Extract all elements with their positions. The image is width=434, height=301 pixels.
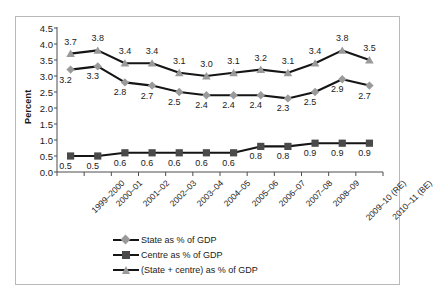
legend-item[interactable]: State as % of GDP [113, 232, 258, 247]
data-point-label: 3.8 [91, 33, 104, 43]
data-point-label: 0.6 [222, 158, 235, 168]
data-point-label: 2.8 [114, 87, 127, 97]
legend-item[interactable]: Centre as % of GDP [113, 247, 258, 262]
data-point-label: 3.1 [282, 56, 295, 66]
data-point-label: 0.6 [168, 158, 181, 168]
data-point-label: 3.4 [146, 46, 159, 56]
data-point-label: 3.5 [363, 43, 376, 53]
data-point-label: 3.2 [254, 53, 267, 63]
data-point-label: 0.8 [277, 151, 290, 161]
data-point-label: 0.9 [331, 148, 344, 158]
data-point-label: 3.0 [200, 59, 213, 69]
data-point-label: 0.9 [304, 148, 317, 158]
chart-legend: State as % of GDPCentre as % of GDP(Stat… [113, 232, 258, 277]
data-point-label: 2.9 [331, 84, 344, 94]
data-point-label: 3.2 [59, 75, 72, 85]
data-point-label: 2.5 [168, 97, 181, 107]
x-tick-label: 2006–07 [276, 178, 306, 208]
data-point-label: 2.4 [195, 100, 208, 110]
data-point-label: 2.7 [141, 91, 154, 101]
data-point-label: 3.8 [336, 33, 349, 43]
data-point-label: 2.5 [304, 97, 317, 107]
data-point-label: 3.4 [309, 46, 322, 56]
data-point-label: 0.8 [249, 151, 262, 161]
legend-item[interactable]: (State + centre) as % of GDP [113, 262, 258, 277]
data-point-label: 0.5 [59, 161, 72, 171]
legend-label: (State + centre) as % of GDP [141, 265, 258, 275]
x-tick-label: 2002–03 [168, 178, 198, 208]
x-tick-label: 2008–09 [331, 178, 361, 208]
diamond-icon [113, 235, 139, 244]
data-point-label: 3.4 [119, 46, 132, 56]
square-icon [113, 250, 139, 259]
data-point-label: 2.7 [358, 91, 371, 101]
data-point-label: 0.9 [358, 148, 371, 158]
x-tick-label: 2003–04 [195, 178, 225, 208]
x-tick-label: 2007–08 [304, 178, 334, 208]
data-point-label: 3.7 [64, 37, 77, 47]
x-tick-label: 2001–02 [141, 178, 171, 208]
x-tick-label: 2005–06 [249, 178, 279, 208]
data-point-label: 0.6 [195, 158, 208, 168]
data-point-label: 2.4 [249, 100, 262, 110]
data-point-label: 3.3 [86, 71, 99, 81]
data-point-label: 0.6 [141, 158, 154, 168]
data-point-label: 2.3 [277, 103, 290, 113]
triangle-icon [113, 265, 139, 274]
data-point-label: 3.1 [227, 56, 240, 66]
data-point-label: 0.5 [86, 161, 99, 171]
legend-label: Centre as % of GDP [141, 250, 223, 260]
legend-label: State as % of GDP [141, 235, 217, 245]
data-point-label: 2.4 [222, 100, 235, 110]
data-point-label: 0.6 [114, 158, 127, 168]
x-tick-label: 2004–05 [222, 178, 252, 208]
data-point-label: 3.1 [173, 56, 186, 66]
